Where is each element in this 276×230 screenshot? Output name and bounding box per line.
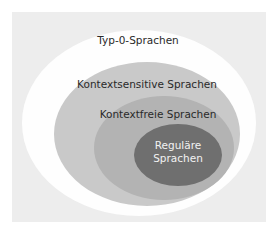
label-kontextfrei: Kontextfreie Sprachen <box>100 108 217 120</box>
label-regulaer: Reguläre Sprachen <box>153 139 203 165</box>
label-regulaer-line2: Sprachen <box>153 152 203 165</box>
label-kontextsensitiv: Kontextsensitive Sprachen <box>77 78 217 90</box>
label-regulaer-line1: Reguläre <box>153 139 203 152</box>
label-typ0: Typ-0-Sprachen <box>97 34 179 46</box>
